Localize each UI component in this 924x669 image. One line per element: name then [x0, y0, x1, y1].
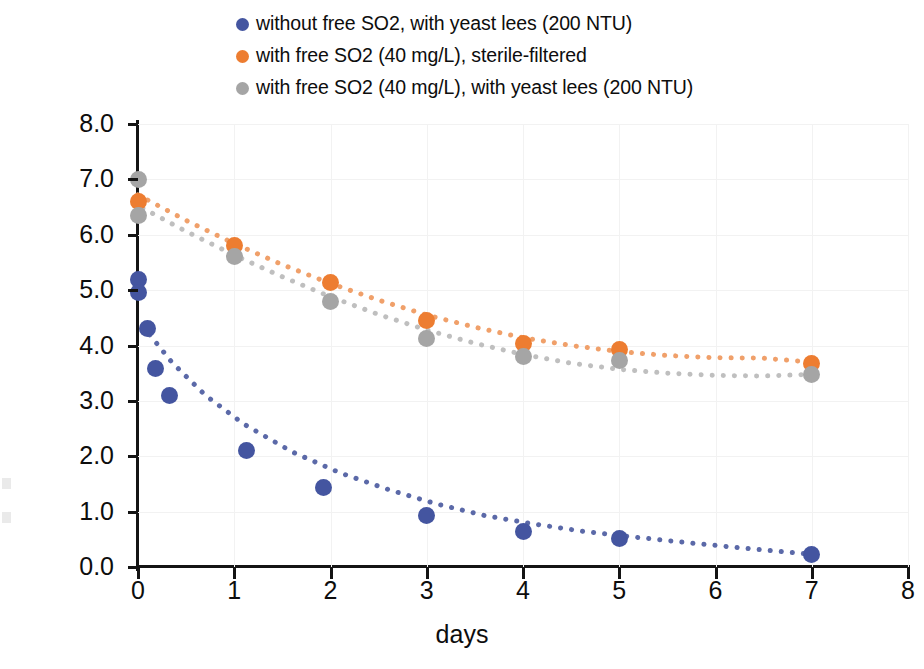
y-axis-tick	[128, 455, 138, 458]
y-axis-tick	[128, 234, 138, 237]
data-point-marker[interactable]	[611, 352, 628, 369]
x-axis-tick-label: 3	[407, 578, 447, 603]
v-gridline	[908, 124, 909, 567]
page-edge-artifact-upper	[2, 478, 11, 489]
x-axis-title: days	[0, 620, 924, 649]
y-axis-tick-label: 3.0	[44, 388, 114, 413]
trendline-series-2	[143, 208, 812, 376]
data-point-marker[interactable]	[130, 207, 147, 224]
y-axis-tick-label: 5.0	[44, 277, 114, 302]
legend-label-0: without free SO2, with yeast lees (200 N…	[256, 14, 632, 34]
y-axis-tick	[128, 123, 138, 126]
y-axis-tick-label: 1.0	[44, 499, 114, 524]
x-axis-tick-label: 8	[888, 578, 924, 603]
legend-item-2[interactable]: with free SO2 (40 mg/L), with yeast lees…	[236, 72, 836, 104]
data-point-marker[interactable]	[515, 523, 532, 540]
data-point-marker[interactable]	[161, 387, 178, 404]
legend-marker-icon-2	[236, 82, 249, 95]
x-axis-tick-label: 5	[599, 578, 639, 603]
y-axis-tick-label: 6.0	[44, 222, 114, 247]
legend-label-2: with free SO2 (40 mg/L), with yeast lees…	[256, 78, 693, 98]
chart-figure: without free SO2, with yeast lees (200 N…	[0, 0, 924, 669]
data-point-marker[interactable]	[418, 312, 435, 329]
plot-area	[138, 124, 908, 567]
x-axis-tick-label: 7	[792, 578, 832, 603]
y-axis-tick-label: 0.0	[44, 554, 114, 579]
y-axis-tick-label: 2.0	[44, 443, 114, 468]
y-axis-tick	[128, 511, 138, 514]
y-axis-tick	[128, 345, 138, 348]
y-axis-tick	[128, 178, 138, 181]
x-axis-tick-label: 4	[503, 578, 543, 603]
data-point-marker[interactable]	[418, 330, 435, 347]
data-point-marker[interactable]	[611, 530, 628, 547]
legend-label-1: with free SO2 (40 mg/L), sterile-filtere…	[256, 46, 587, 66]
data-point-marker[interactable]	[130, 284, 147, 301]
page-edge-artifact-lower	[2, 512, 11, 523]
data-point-marker[interactable]	[147, 360, 164, 377]
x-axis-tick-label: 0	[118, 578, 158, 603]
x-axis-tick-label: 2	[311, 578, 351, 603]
chart-legend: without free SO2, with yeast lees (200 N…	[236, 8, 836, 104]
legend-marker-icon-1	[236, 50, 249, 63]
data-point-marker[interactable]	[322, 293, 339, 310]
x-axis-tick-label: 1	[214, 578, 254, 603]
trendline-series-0	[143, 326, 812, 554]
x-axis-tick-label: 6	[696, 578, 736, 603]
legend-item-1[interactable]: with free SO2 (40 mg/L), sterile-filtere…	[236, 40, 836, 72]
y-axis-tick-label: 4.0	[44, 333, 114, 358]
y-axis-tick-label: 8.0	[44, 111, 114, 136]
legend-item-0[interactable]: without free SO2, with yeast lees (200 N…	[236, 8, 836, 40]
trendline-series-1	[138, 195, 812, 362]
y-axis-tick-label: 7.0	[44, 166, 114, 191]
legend-marker-icon-0	[236, 18, 249, 31]
data-point-marker[interactable]	[515, 348, 532, 365]
y-axis-tick	[128, 400, 138, 403]
y-axis-tick	[128, 289, 138, 292]
